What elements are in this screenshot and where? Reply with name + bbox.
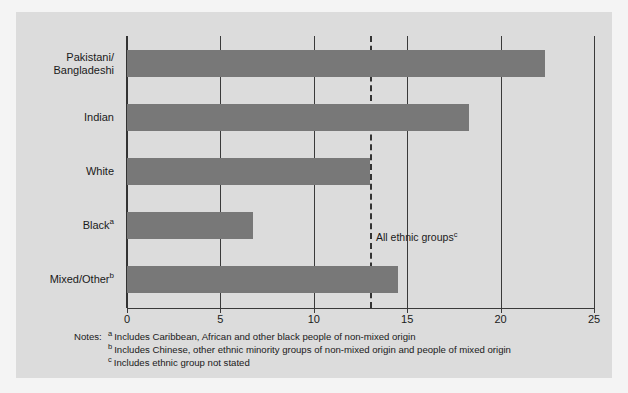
chart-panel: Pakistani/BangladeshiIndianWhiteBlackaMi… xyxy=(16,12,612,378)
x-axis-tick-label: 10 xyxy=(299,313,329,325)
note-text: Includes Caribbean, African and other bl… xyxy=(114,331,415,342)
note-marker: a xyxy=(108,329,112,338)
y-axis-label-line1: Pakistani/ xyxy=(66,51,114,63)
notes-list: aIncludes Caribbean, African and other b… xyxy=(74,330,511,369)
y-axis-label: Indian xyxy=(16,111,114,124)
y-axis-label: White xyxy=(16,165,114,178)
bar xyxy=(127,158,370,185)
x-axis-tick-label: 20 xyxy=(486,313,516,325)
x-axis-tick-label: 15 xyxy=(392,313,422,325)
y-axis-label-line1: Black xyxy=(83,219,110,231)
y-axis-label: Blacka xyxy=(16,219,114,232)
x-axis-tick-label: 5 xyxy=(205,313,235,325)
note-item: aIncludes Caribbean, African and other b… xyxy=(108,330,511,343)
notes-label: Notes: xyxy=(74,330,102,343)
gridline-25 xyxy=(594,36,595,308)
y-axis-label-superscript: b xyxy=(110,271,114,280)
reference-line-annotation-text: All ethnic groups xyxy=(376,231,454,243)
note-item: bIncludes Chinese, other ethnic minority… xyxy=(108,343,511,356)
x-axis-line xyxy=(127,308,595,309)
x-axis-tick-label: 0 xyxy=(112,313,142,325)
bar xyxy=(127,212,253,239)
y-axis-label-line1: White xyxy=(86,165,114,177)
reference-line-annotation-superscript: c xyxy=(454,230,458,239)
reference-line-annotation: All ethnic groupsc xyxy=(376,231,457,243)
y-axis-label-line2: Bangladeshi xyxy=(53,64,114,76)
y-axis-label: Pakistani/Bangladeshi xyxy=(16,51,114,77)
y-axis-label-superscript: a xyxy=(110,217,114,226)
y-axis-label-line1: Indian xyxy=(84,111,114,123)
figure-canvas: Pakistani/BangladeshiIndianWhiteBlackaMi… xyxy=(0,0,628,393)
y-axis-label-line1: Mixed/Other xyxy=(50,273,110,285)
bar xyxy=(127,50,545,77)
note-item: cIncludes ethnic group not stated xyxy=(108,356,511,369)
note-text: Includes ethnic group not stated xyxy=(114,357,250,368)
note-marker: c xyxy=(108,355,112,364)
notes-block: Notes: aIncludes Caribbean, African and … xyxy=(74,330,511,369)
bar xyxy=(127,104,469,131)
note-marker: b xyxy=(108,342,112,351)
x-axis-tick-label: 25 xyxy=(579,313,609,325)
bar xyxy=(127,266,398,293)
note-text: Includes Chinese, other ethnic minority … xyxy=(114,344,511,355)
y-axis-label: Mixed/Otherb xyxy=(16,273,114,286)
